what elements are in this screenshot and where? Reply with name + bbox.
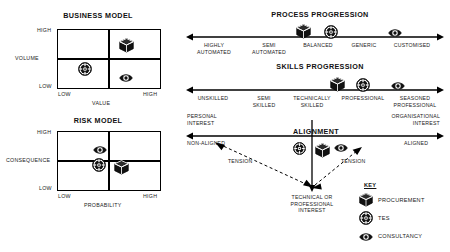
business-model-y-axis-label: VOLUME xyxy=(15,55,39,61)
scale-line: AUTOMATED xyxy=(186,49,242,56)
risk-model-x-axis-label: PROBABILITY xyxy=(84,202,122,208)
cube-icon xyxy=(315,143,330,158)
process-scale-item-4: GENERIC xyxy=(343,42,385,49)
scale-line: AUTOMATED xyxy=(241,49,297,56)
scale-line: TECHNICALLY xyxy=(285,95,339,102)
label-line: INTEREST xyxy=(187,120,217,127)
target-icon xyxy=(356,78,370,92)
skills-scale-item-5: SEASONED PROFESSIONAL xyxy=(386,95,444,108)
eye-icon xyxy=(119,71,133,85)
eye-icon xyxy=(93,143,107,157)
key-title: KEY xyxy=(364,182,376,188)
matrix-horizontal-divider xyxy=(58,58,160,60)
scale-line: SKILLED xyxy=(241,102,287,109)
scale-line: HIGHLY xyxy=(186,42,242,49)
skills-scale-item-2: SEMI SKILLED xyxy=(241,95,287,108)
eye-icon xyxy=(359,230,373,244)
process-progression-title: PROCESS PROGRESSION xyxy=(200,10,440,19)
key-label: TES xyxy=(378,215,390,221)
alignment-tension-right-label: TENSION xyxy=(341,158,365,164)
scale-line: SEASONED xyxy=(386,95,444,102)
business-model-x-low-label: LOW xyxy=(58,91,71,97)
target-icon xyxy=(78,62,92,76)
target-icon xyxy=(293,142,306,155)
business-model-x-axis-label: VALUE xyxy=(92,100,110,106)
alignment-tension-left-label: TENSION xyxy=(228,158,252,164)
scale-line: BALANCED xyxy=(294,42,342,49)
process-scale-item-2: SEMI AUTOMATED xyxy=(241,42,297,55)
cube-icon xyxy=(296,24,311,39)
scale-line: SEMI xyxy=(241,95,287,102)
label-line: PERSONAL xyxy=(187,113,217,120)
cube-icon xyxy=(119,38,134,53)
alignment-right-top-label: ORGANISATIONAL INTEREST xyxy=(378,113,440,126)
alignment-aligned-label: ALIGNED xyxy=(404,140,428,147)
target-icon xyxy=(92,158,106,172)
skills-scale-item-1: UNSKILLED xyxy=(186,95,240,102)
scale-line: PROFESSIONAL xyxy=(336,95,390,102)
business-model-title: BUSINESS MODEL xyxy=(28,11,168,20)
target-icon xyxy=(324,25,338,39)
risk-model-y-low-label: LOW xyxy=(39,185,52,191)
scale-line: GENERIC xyxy=(343,42,385,49)
risk-model-x-high-label: HIGH xyxy=(143,193,157,199)
risk-model-x-low-label: LOW xyxy=(58,193,71,199)
process-scale-item-3: BALANCED xyxy=(294,42,342,49)
risk-model-matrix xyxy=(57,131,161,191)
risk-model-title: RISK MODEL xyxy=(28,116,168,125)
label-line: TECHNICAL OR xyxy=(272,194,352,201)
label-line: ORGANISATIONAL xyxy=(378,113,440,120)
risk-model-y-axis-label: CONSEQUENCE xyxy=(6,157,50,163)
label-line: INTEREST xyxy=(272,207,352,214)
cube-icon xyxy=(114,160,129,175)
skills-progression-title: SKILLS PROGRESSION xyxy=(200,62,440,71)
scale-line: SEMI xyxy=(241,42,297,49)
business-model-x-high-label: HIGH xyxy=(143,91,157,97)
process-scale-item-1: HIGHLY AUTOMATED xyxy=(186,42,242,55)
business-model-y-high-label: HIGH xyxy=(37,27,51,33)
cube-icon xyxy=(359,193,373,207)
alignment-left-top-label: PERSONAL INTEREST xyxy=(187,113,217,126)
process-scale-item-5: CUSTOMISED xyxy=(384,42,440,49)
eye-icon xyxy=(391,79,405,93)
skills-scale-item-4: PROFESSIONAL xyxy=(336,95,390,102)
matrix-horizontal-divider xyxy=(58,160,160,162)
business-model-matrix xyxy=(57,29,161,89)
skills-scale-item-3: TECHNICALLY SKILLED xyxy=(285,95,339,108)
alignment-bottom-label: TECHNICAL OR PROFESSIONAL INTEREST xyxy=(272,194,352,214)
diagram-canvas: BUSINESS MODEL HIGH VOLUME LOW LOW HIGH … xyxy=(0,0,450,252)
label-line: INTEREST xyxy=(378,120,440,127)
key-label: PROCUREMENT xyxy=(378,197,425,203)
scale-line: PROFESSIONAL xyxy=(386,102,444,109)
eye-icon xyxy=(334,141,348,155)
cube-icon xyxy=(330,77,345,92)
risk-model-y-high-label: HIGH xyxy=(37,129,51,135)
business-model-y-low-label: LOW xyxy=(39,83,52,89)
key-label: CONSULTANCY xyxy=(378,233,422,239)
label-line: PROFESSIONAL xyxy=(272,201,352,208)
target-icon xyxy=(359,211,373,225)
eye-icon xyxy=(388,26,402,40)
scale-line: CUSTOMISED xyxy=(384,42,440,49)
scale-line: SKILLED xyxy=(285,102,339,109)
scale-line: UNSKILLED xyxy=(186,95,240,102)
